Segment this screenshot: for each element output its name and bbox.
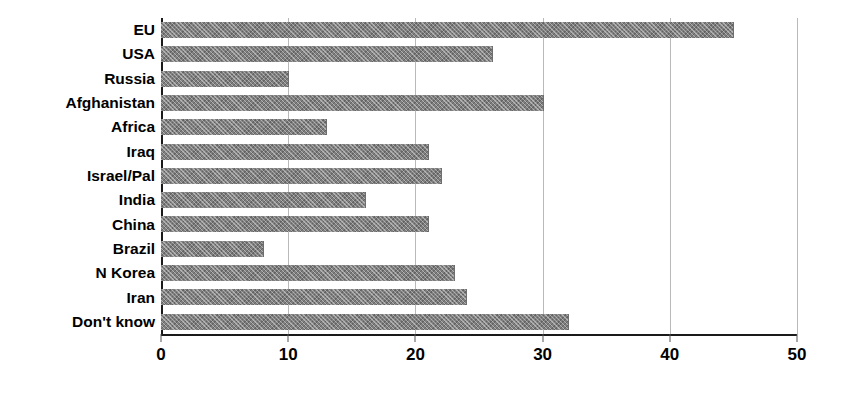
y-axis-label-israel-pal: Israel/Pal: [0, 168, 155, 184]
bar-don-t-know: [161, 314, 569, 330]
y-axis-category-labels: EUUSARussiaAfghanistanAfricaIraqIsrael/P…: [0, 18, 155, 334]
bar-israel-pal: [161, 168, 442, 184]
bar-series: [161, 18, 797, 334]
x-tick-label-10: 10: [279, 344, 298, 366]
y-axis-label-n-korea: N Korea: [0, 265, 155, 281]
bar-iraq: [161, 144, 429, 160]
y-axis-label-brazil: Brazil: [0, 241, 155, 257]
bar-china: [161, 216, 429, 232]
bar-usa: [161, 46, 493, 62]
x-tick-mark-10: [288, 334, 289, 342]
y-axis-label-afghanistan: Afghanistan: [0, 95, 155, 111]
bar-india: [161, 192, 366, 208]
y-axis-label-eu: EU: [0, 22, 155, 38]
bar-afghanistan: [161, 95, 544, 111]
bar-brazil: [161, 241, 264, 257]
x-axis-tick-labels: 01020304050: [161, 344, 797, 374]
x-tick-label-0: 0: [156, 344, 165, 366]
bar-iran: [161, 289, 467, 305]
y-axis-label-iran: Iran: [0, 290, 155, 306]
bar-russia: [161, 71, 289, 87]
x-tick-label-20: 20: [406, 344, 425, 366]
x-tick-mark-40: [669, 334, 670, 342]
plot-area: [161, 18, 797, 334]
x-tick-mark-20: [415, 334, 416, 342]
y-axis-label-usa: USA: [0, 46, 155, 62]
y-axis-label-don-t-know: Don't know: [0, 314, 155, 330]
bar-chart: EUUSARussiaAfghanistanAfricaIraqIsrael/P…: [0, 0, 855, 393]
x-tick-label-40: 40: [660, 344, 679, 366]
x-axis-line: [161, 334, 797, 336]
bar-eu: [161, 22, 734, 38]
x-tick-mark-0: [161, 334, 162, 342]
y-axis-label-russia: Russia: [0, 71, 155, 87]
bar-africa: [161, 119, 327, 135]
y-axis-label-iraq: Iraq: [0, 144, 155, 160]
x-tick-mark-30: [542, 334, 543, 342]
y-axis-label-africa: Africa: [0, 119, 155, 135]
gridline-50: [797, 18, 798, 334]
x-tick-mark-50: [797, 334, 798, 342]
y-axis-label-india: India: [0, 192, 155, 208]
x-tick-label-30: 30: [533, 344, 552, 366]
y-axis-label-china: China: [0, 217, 155, 233]
bar-n-korea: [161, 265, 455, 281]
x-tick-label-50: 50: [788, 344, 807, 366]
